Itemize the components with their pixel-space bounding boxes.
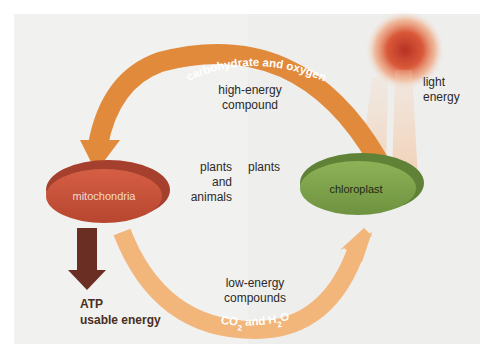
- mitochondria-label: mitochondria: [73, 190, 137, 202]
- atp-down-arrow-icon: [68, 228, 106, 290]
- high-energy-label: high-energy compound: [205, 83, 295, 113]
- left-organism-line-2: and: [182, 175, 232, 190]
- plants-and-animals-label: plants and animals: [182, 160, 232, 205]
- low-energy-line-1: low-energy: [200, 276, 310, 291]
- low-energy-line-2: compounds: [200, 291, 310, 306]
- left-organism-line-3: animals: [182, 190, 232, 205]
- atp-subtitle: usable energy: [80, 312, 161, 328]
- light-energy-label: light energy: [423, 75, 460, 105]
- plants-label: plants: [248, 160, 280, 175]
- high-energy-line-1: high-energy: [205, 83, 295, 98]
- top-arc-arrow: [80, 54, 378, 172]
- atp-label: ATP usable energy: [80, 296, 161, 328]
- chloroplast-label: chloroplast: [329, 183, 382, 195]
- light-energy-line-1: light: [423, 75, 460, 90]
- atp-title: ATP: [80, 296, 161, 312]
- high-energy-line-2: compound: [205, 98, 295, 113]
- low-energy-label: low-energy compounds: [200, 276, 310, 306]
- left-organism-line-1: plants: [182, 160, 232, 175]
- light-energy-line-2: energy: [423, 90, 460, 105]
